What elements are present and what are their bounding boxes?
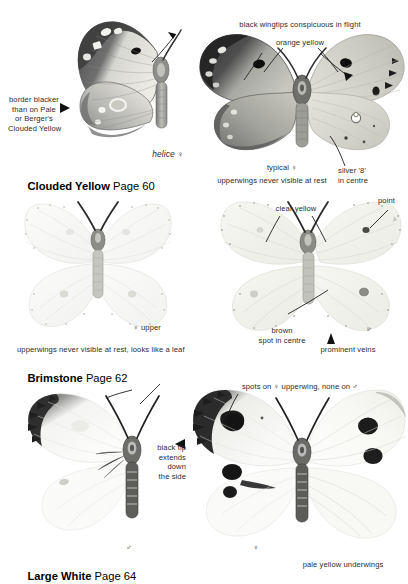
page-ref-brimstone: Page 62 bbox=[86, 372, 128, 384]
butterfly-typical-female bbox=[196, 30, 408, 162]
label-helice-female: helice ♀ bbox=[140, 150, 196, 160]
label-clear-yellow: clear yellow bbox=[262, 204, 330, 214]
label-female-upper: ♀ upper bbox=[118, 323, 176, 333]
label-black-wingtips: black wingtips conspicuous in flight bbox=[196, 20, 404, 30]
butterfly-helice-female bbox=[62, 8, 182, 160]
label-silver-eight: silver '8' in centre bbox=[338, 166, 400, 185]
page-ref-large-white: Page 64 bbox=[95, 570, 137, 582]
label-large-white-female: ♀ bbox=[245, 543, 267, 553]
butterfly-brimstone-female bbox=[18, 198, 178, 338]
label-typical-female: typical ♀ bbox=[250, 163, 314, 173]
field-guide-page: border blacker than on Pale or Berger's … bbox=[0, 0, 408, 584]
label-pale-yellow-underwings: pale yellow underwings bbox=[284, 560, 402, 570]
species-name-brimstone: Brimstone bbox=[27, 372, 82, 384]
label-upperwings-leaf: upperwings never visible at rest, looks … bbox=[17, 345, 257, 355]
label-brown-spot: brown spot in centre bbox=[246, 326, 318, 345]
label-upperwings-never-visible: upperwings never visible at rest bbox=[196, 176, 348, 186]
species-name-clouded-yellow: Clouded Yellow bbox=[27, 180, 109, 192]
label-prominent-veins: prominent veins bbox=[300, 345, 396, 355]
page-ref-clouded-yellow: Page 60 bbox=[113, 180, 155, 192]
label-border-blacker: border blacker than on Pale or Berger's … bbox=[8, 95, 60, 133]
title-brimstone: Brimstone Page 62 bbox=[15, 360, 128, 396]
label-point: point bbox=[378, 196, 406, 206]
title-clouded-yellow: Clouded Yellow Page 60 bbox=[15, 168, 155, 204]
butterfly-brimstone-male bbox=[216, 196, 406, 342]
label-large-white-male: ♂ bbox=[118, 543, 140, 553]
title-large-white: Large White Page 64 bbox=[15, 558, 136, 584]
label-black-tip: black tip extends down the side bbox=[124, 443, 186, 481]
butterfly-large-white-female bbox=[188, 384, 408, 552]
species-name-large-white: Large White bbox=[27, 570, 91, 582]
label-spots-on-female: spots on ♀ upperwing, none on ♂ bbox=[196, 382, 404, 392]
label-orange-yellow: orange yellow bbox=[258, 38, 342, 48]
label-brimstone-male: ♂ bbox=[358, 325, 380, 335]
